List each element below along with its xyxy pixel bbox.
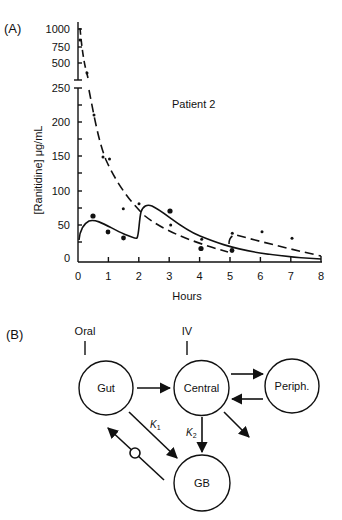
valve-icon bbox=[130, 448, 140, 458]
x-tick-5: 5 bbox=[227, 270, 233, 282]
y-tick-150: 150 bbox=[52, 150, 70, 162]
x-axis-label: Hours bbox=[172, 290, 202, 302]
panel-b-label: (B) bbox=[6, 327, 23, 342]
x-tick-3: 3 bbox=[166, 270, 172, 282]
iv-observed-points bbox=[79, 39, 294, 241]
node-periph: Periph. bbox=[265, 359, 319, 413]
oral-fit-curve bbox=[79, 205, 321, 259]
panel-a-label: (A) bbox=[4, 21, 21, 36]
y-tick-1000: 1000 bbox=[46, 23, 70, 35]
x-tick-6: 6 bbox=[257, 270, 263, 282]
y-tick-250: 250 bbox=[52, 82, 70, 94]
panel-a: (A) 1000 750 500 250 200 150 bbox=[4, 21, 324, 302]
k1-label: K1 bbox=[150, 419, 161, 431]
node-gut: Gut bbox=[79, 361, 133, 415]
y-axis-label: [Ranitidine] μg/mL bbox=[32, 126, 44, 215]
node-gb: GB bbox=[174, 455, 230, 511]
node-central: Central bbox=[174, 361, 229, 416]
oral-observed-points bbox=[90, 208, 234, 253]
node-periph-label: Periph. bbox=[275, 380, 310, 392]
iv-fit-curve-upper bbox=[80, 28, 88, 78]
patient-annotation: Patient 2 bbox=[172, 98, 215, 110]
y-tick-200: 200 bbox=[52, 116, 70, 128]
node-gb-label: GB bbox=[194, 477, 210, 489]
y-tick-50: 50 bbox=[58, 219, 70, 231]
y-tick-750: 750 bbox=[52, 41, 70, 53]
x-tick-8: 8 bbox=[318, 270, 324, 282]
y-tick-0: 0 bbox=[64, 252, 70, 264]
x-tick-2: 2 bbox=[136, 270, 142, 282]
oral-input-label: Oral bbox=[75, 325, 96, 337]
x-tick-7: 7 bbox=[288, 270, 294, 282]
node-central-label: Central bbox=[184, 382, 219, 394]
x-tick-0: 0 bbox=[75, 270, 81, 282]
figure-canvas: (A) 1000 750 500 250 200 150 bbox=[0, 0, 342, 520]
panel-b: (B) Oral IV Gut Central Periph. GB bbox=[6, 325, 319, 511]
x-tick-4: 4 bbox=[197, 270, 203, 282]
y-tick-100: 100 bbox=[52, 185, 70, 197]
iv-fit-curve-second-dose bbox=[229, 235, 321, 256]
y-axis-lower bbox=[74, 88, 82, 262]
iv-input-label: IV bbox=[182, 325, 193, 337]
arrow-central-elimination bbox=[224, 412, 249, 437]
x-tick-1: 1 bbox=[105, 270, 111, 282]
y-tick-500: 500 bbox=[52, 57, 70, 69]
node-gut-label: Gut bbox=[97, 382, 115, 394]
k2-label: K2 bbox=[186, 427, 197, 439]
